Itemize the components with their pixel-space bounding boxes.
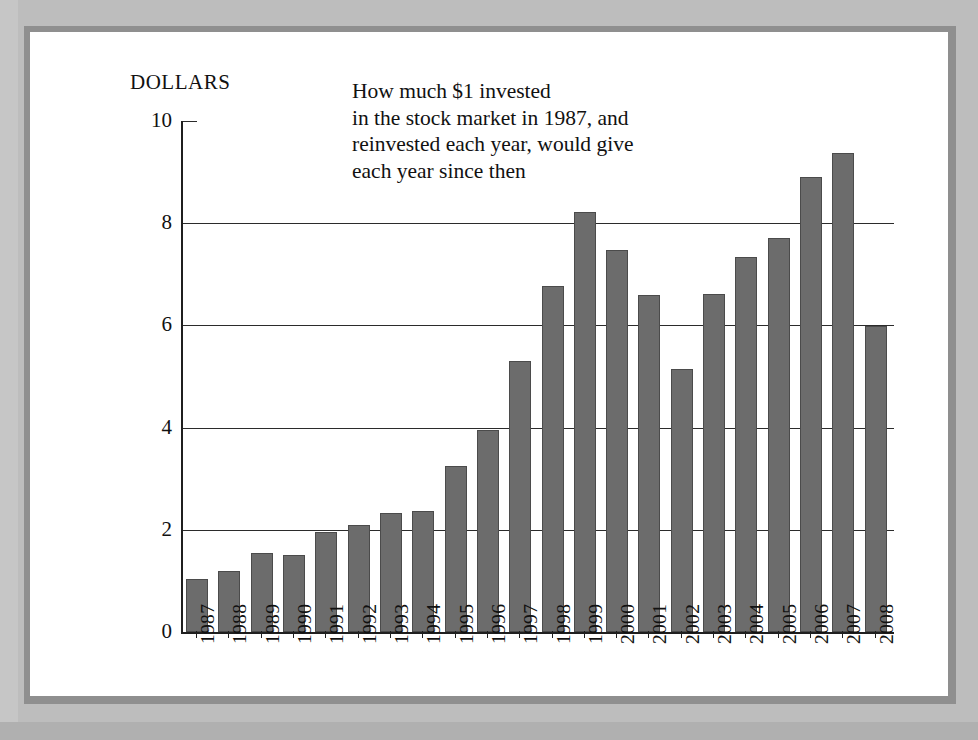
y-axis-tick-label: 2 bbox=[162, 517, 173, 542]
plot-area: 0246810 19871988198919901991199219931994… bbox=[181, 112, 909, 640]
bar[interactable] bbox=[638, 295, 660, 632]
bar-slot: 1987 bbox=[183, 112, 215, 632]
bar[interactable] bbox=[768, 238, 790, 632]
bar[interactable] bbox=[800, 177, 822, 632]
bar-chart: DOLLARS How much $1 invested in the stoc… bbox=[30, 32, 948, 696]
bar-slot: 2007 bbox=[829, 112, 861, 632]
y-axis-title-text: DOLLARS bbox=[130, 70, 230, 94]
y-axis-tick-label: 6 bbox=[162, 312, 173, 337]
bar-slot: 1998 bbox=[539, 112, 571, 632]
bar[interactable] bbox=[671, 369, 693, 632]
bar-slot: 2003 bbox=[700, 112, 732, 632]
bar[interactable] bbox=[703, 294, 725, 632]
bar-slot: 1989 bbox=[248, 112, 280, 632]
y-axis-tick-label: 8 bbox=[162, 210, 173, 235]
bar-slot: 1990 bbox=[280, 112, 312, 632]
y-axis-tick-label: 0 bbox=[162, 619, 173, 644]
bar-slot: 2005 bbox=[765, 112, 797, 632]
bar-slot: 2006 bbox=[797, 112, 829, 632]
bar[interactable] bbox=[542, 286, 564, 632]
bar[interactable] bbox=[477, 430, 499, 632]
bar-slot: 2001 bbox=[635, 112, 667, 632]
bar-slot: 2008 bbox=[862, 112, 894, 632]
y-axis-tick-label: 4 bbox=[162, 415, 173, 440]
annotation-line-1: How much $1 invested bbox=[352, 78, 634, 105]
bar[interactable] bbox=[735, 257, 757, 632]
bar-slot: 1991 bbox=[312, 112, 344, 632]
bar[interactable] bbox=[865, 326, 887, 632]
bar-slot: 1999 bbox=[571, 112, 603, 632]
bar[interactable] bbox=[509, 361, 531, 632]
bar-slot: 1995 bbox=[442, 112, 474, 632]
x-axis-tick-label: 2008 bbox=[876, 604, 898, 644]
bar-slot: 2004 bbox=[732, 112, 764, 632]
y-axis-title: DOLLARS bbox=[130, 70, 230, 95]
bar-slot: 1994 bbox=[409, 112, 441, 632]
bar[interactable] bbox=[574, 212, 596, 632]
y-axis-tick-label: 10 bbox=[151, 108, 172, 133]
backdrop-band-bottom bbox=[0, 722, 978, 740]
bar-slot: 1997 bbox=[506, 112, 538, 632]
bar-slot: 2002 bbox=[668, 112, 700, 632]
bar-slot: 1996 bbox=[474, 112, 506, 632]
bar-slot: 1993 bbox=[377, 112, 409, 632]
backdrop-band-left bbox=[0, 0, 18, 740]
bar[interactable] bbox=[606, 250, 628, 632]
bar-slot: 2000 bbox=[603, 112, 635, 632]
bar[interactable] bbox=[832, 153, 854, 632]
bar-slot: 1992 bbox=[345, 112, 377, 632]
bar-slot: 1988 bbox=[215, 112, 247, 632]
bars-group: 1987198819891990199119921993199419951996… bbox=[183, 112, 894, 632]
